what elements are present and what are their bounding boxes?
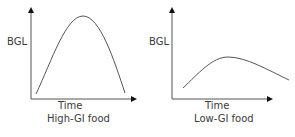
left-x-axis-label: Time <box>58 100 82 111</box>
high-gi-chart <box>31 10 134 99</box>
right-y-axis-label: BGL <box>149 36 169 47</box>
high-gi-curve <box>36 16 125 94</box>
right-x-axis-label: Time <box>205 100 229 111</box>
left-caption: High-GI food <box>47 113 110 124</box>
right-caption: Low-GI food <box>194 113 254 124</box>
low-gi-chart <box>172 10 289 99</box>
low-gi-curve <box>183 57 289 88</box>
left-y-axis-label: BGL <box>7 36 27 47</box>
